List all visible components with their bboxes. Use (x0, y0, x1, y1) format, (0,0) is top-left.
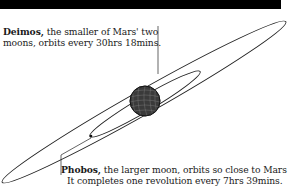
phobos-name: Phobos (61, 164, 98, 175)
phobos-moon-icon (90, 135, 93, 138)
phobos-text-line2: It completes one revolution every 7hrs 3… (61, 175, 287, 186)
deimos-caption: Deimos, the smaller of Mars' two moons, … (3, 26, 161, 48)
mars-globe-icon (130, 86, 160, 116)
deimos-text-line2: moons, orbits every 30hrs 18mins. (3, 37, 161, 48)
phobos-text-line1: the larger moon, orbits so close to Mars (101, 164, 287, 175)
deimos-text-line1: the smaller of Mars' two (44, 26, 158, 37)
phobos-caption: Phobos, the larger moon, orbits so close… (61, 164, 287, 186)
deimos-name: Deimos (3, 26, 41, 37)
